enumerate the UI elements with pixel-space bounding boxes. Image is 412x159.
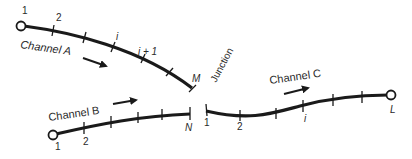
channel-b-node-n-label: N bbox=[185, 122, 193, 133]
channel-c-flow-arrow-icon bbox=[284, 88, 308, 94]
channel-b-node-2-label: 2 bbox=[83, 136, 89, 147]
channel-c-end-node bbox=[387, 91, 396, 100]
channel-a-node-i-plus-1-label: i + 1 bbox=[138, 46, 157, 57]
channel-a-label: Channel A bbox=[20, 38, 72, 57]
channel-b-flow-arrow-icon bbox=[113, 100, 136, 104]
channel-b-ticks bbox=[84, 107, 190, 134]
channel-b: 1 2 N Channel B bbox=[48, 100, 193, 152]
channel-a-node-1-label: 1 bbox=[22, 5, 28, 16]
channel-a-node-m-label: M bbox=[192, 73, 201, 84]
channel-c-line bbox=[206, 95, 388, 116]
channel-c-label: Channel C bbox=[269, 67, 322, 86]
channel-b-label: Channel B bbox=[48, 104, 101, 123]
channel-b-node-1-label: 1 bbox=[55, 141, 61, 152]
junction-label: Junction bbox=[208, 46, 235, 84]
channel-c-node-i-label: i bbox=[304, 113, 307, 124]
channel-a-node-i-label: i bbox=[116, 31, 119, 42]
channel-c-node-1-label: 1 bbox=[204, 117, 210, 128]
channel-c-node-l-label: L bbox=[390, 104, 396, 115]
channel-network-diagram: 1 2 i i + 1 M Channel A 1 2 N Channel B bbox=[0, 0, 412, 159]
channel-a: 1 2 i i + 1 M Channel A bbox=[17, 5, 202, 92]
channel-a-node-2-label: 2 bbox=[56, 12, 62, 23]
channel-c-node-2-label: 2 bbox=[237, 121, 243, 132]
channel-b-start-node bbox=[49, 131, 58, 140]
channel-a-start-node bbox=[17, 22, 26, 31]
channel-c: 1 2 i L Channel C bbox=[204, 67, 396, 132]
channel-a-line bbox=[24, 26, 192, 88]
channel-a-flow-arrow-icon bbox=[83, 58, 106, 66]
